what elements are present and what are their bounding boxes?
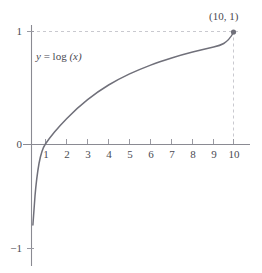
- curve-equation-log: log: [53, 50, 67, 62]
- x-tick-label-8: 8: [183, 149, 203, 160]
- x-tick-label-10: 10: [224, 149, 244, 160]
- log-function-chart: 1 0 −1 1 2 3 4 5 6 7 8 9 10 y = log (x) …: [0, 0, 262, 273]
- x-tick-label-4: 4: [99, 149, 119, 160]
- curve-equation-equals: =: [41, 50, 53, 62]
- curve-equation-arg: (x): [67, 50, 82, 62]
- x-tick-label-7: 7: [162, 149, 182, 160]
- x-tick-label-3: 3: [78, 149, 98, 160]
- x-tick-label-9: 9: [204, 149, 224, 160]
- x-tick-label-5: 5: [120, 149, 140, 160]
- plot-canvas: [0, 0, 262, 273]
- x-axis-ticks: [46, 139, 234, 144]
- x-tick-label-1: 1: [36, 149, 56, 160]
- y-tick-label-1: 1: [6, 26, 22, 37]
- x-tick-label-2: 2: [57, 149, 77, 160]
- y-tick-label-neg1: −1: [6, 243, 22, 254]
- curve-equation-label: y = log (x): [36, 51, 82, 62]
- endpoint-marker-dot: [231, 29, 236, 34]
- endpoint-coordinate-label: (10, 1): [209, 11, 238, 22]
- x-tick-label-6: 6: [141, 149, 161, 160]
- y-tick-label-0: 0: [6, 139, 22, 150]
